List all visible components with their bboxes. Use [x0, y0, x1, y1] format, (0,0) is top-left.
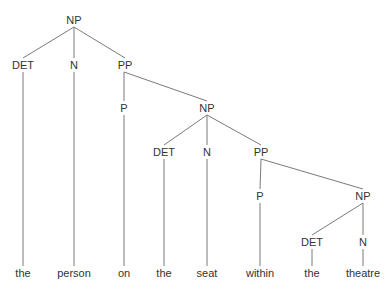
word-within: within: [245, 267, 275, 279]
node-n: N: [358, 236, 368, 248]
word-on: on: [117, 267, 131, 279]
tree-edge: [23, 27, 74, 58]
tree-edge: [260, 159, 261, 189]
node-pp: PP: [117, 59, 134, 71]
node-det: DET: [300, 236, 324, 248]
tree-edge: [312, 203, 363, 235]
word-theatre: theatre: [345, 267, 381, 279]
word-person: person: [56, 267, 92, 279]
node-np: NP: [198, 102, 215, 114]
node-pp: PP: [253, 146, 270, 158]
word-the: the: [303, 267, 320, 279]
tree-edge: [207, 115, 261, 145]
word-the: the: [14, 267, 31, 279]
node-p: P: [119, 102, 128, 114]
tree-edge: [164, 115, 207, 145]
tree-edge: [74, 27, 125, 58]
node-det: DET: [11, 59, 35, 71]
syntax-tree-diagram: NP DET N PP P NP DET N PP P NP DET N the…: [0, 0, 389, 293]
tree-edge: [261, 159, 363, 189]
node-n: N: [69, 59, 79, 71]
tree-edge: [124, 72, 207, 101]
word-the: the: [155, 267, 172, 279]
node-det: DET: [152, 146, 176, 158]
node-np-root: NP: [65, 14, 82, 26]
word-seat: seat: [196, 267, 219, 279]
node-np: NP: [354, 190, 371, 202]
node-n: N: [202, 146, 212, 158]
node-p: P: [255, 190, 264, 202]
tree-edges: [0, 0, 389, 293]
